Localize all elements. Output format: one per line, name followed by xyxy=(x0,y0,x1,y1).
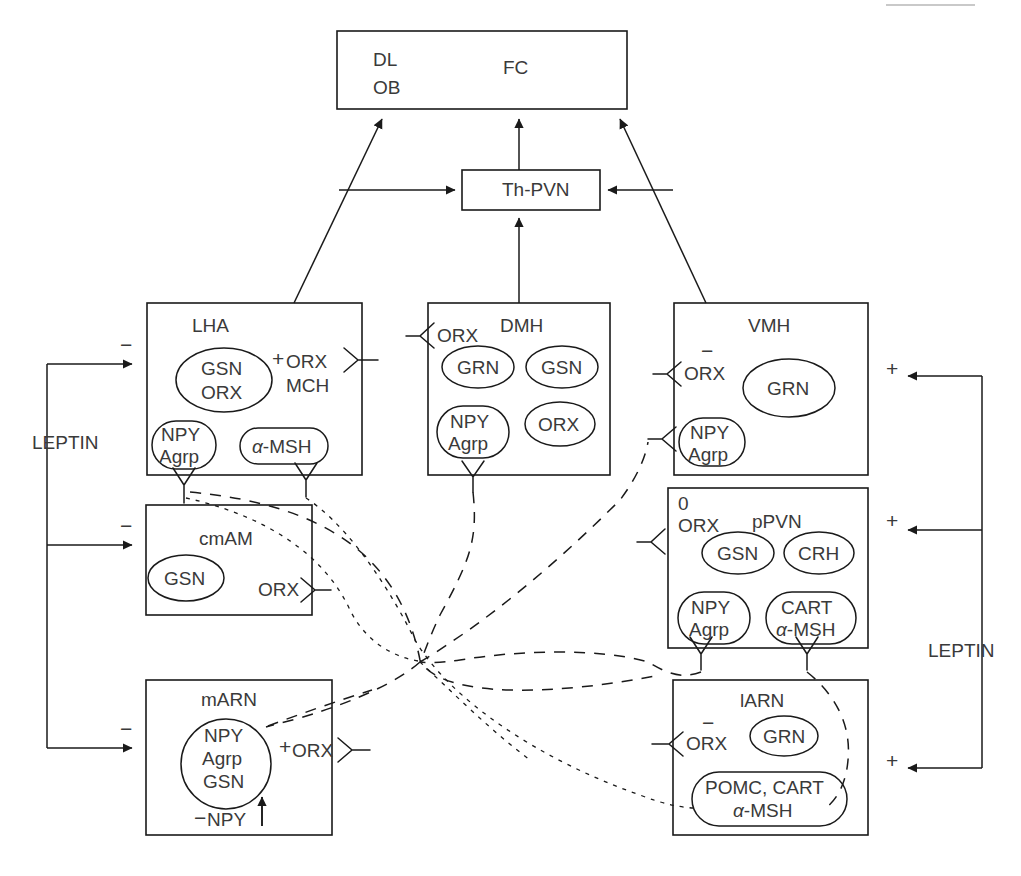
larn-in-orx: ORX xyxy=(686,733,728,754)
lha-out-mch: MCH xyxy=(286,375,329,396)
marn-leptin-sign: − xyxy=(120,717,132,740)
dashed-path-hub-to-marn xyxy=(266,662,420,727)
vmh-agrp-label: Agrp xyxy=(688,444,728,465)
cortex-label-fc: FC xyxy=(503,57,528,78)
vmh-npy-label: NPY xyxy=(690,422,729,443)
dmh-agrp-label: Agrp xyxy=(448,433,488,454)
vmh-label: VMH xyxy=(748,315,790,336)
vmh-input-fork-icon xyxy=(653,362,681,386)
cmam-out-orx: ORX xyxy=(258,579,300,600)
cortex-label-ob: OB xyxy=(373,77,400,98)
dmh-label: DMH xyxy=(500,315,543,336)
ppvn-input-fork-icon xyxy=(637,529,665,554)
lha-output-fork-icon xyxy=(344,348,378,372)
larn-pomc-label: POMC, CART xyxy=(705,777,824,798)
marn-out-sign: + xyxy=(279,735,291,758)
ppvn-gsn-label: GSN xyxy=(717,543,758,564)
marn-label: mARN xyxy=(201,689,257,710)
leptin-right-label: LEPTIN xyxy=(928,640,995,661)
marn-npy-label: NPY xyxy=(204,725,243,746)
leptin-left-label: LEPTIN xyxy=(32,432,99,453)
marn-agrp-label: Agrp xyxy=(202,748,242,769)
ppvn-npy-output-fork-icon xyxy=(690,637,712,670)
cortex-label-dl: DL xyxy=(373,49,397,70)
larn-in-sign: − xyxy=(702,711,714,734)
vmh-in-sign: − xyxy=(701,339,713,362)
ppvn-leptin-sign: + xyxy=(886,509,898,532)
ppvn-crh-label: CRH xyxy=(798,543,839,564)
ppvn-cart-output-fork-icon xyxy=(796,637,818,670)
cmam-leptin-sign: − xyxy=(120,514,132,537)
vmh-npy-fork-icon xyxy=(648,427,676,451)
lha-npy-label: NPY xyxy=(161,424,200,445)
larn-grn-label: GRN xyxy=(763,726,805,747)
dmh-input-fork-icon xyxy=(406,323,434,348)
lha-leptin-sign: − xyxy=(120,333,132,356)
larn-leptin-sign: + xyxy=(886,749,898,772)
lha-label: LHA xyxy=(192,315,229,336)
marn-out-orx: ORX xyxy=(292,740,334,761)
lha-orx-label: ORX xyxy=(201,382,243,403)
larn-amsh-label: α-MSH xyxy=(733,800,792,821)
dotted-path-hub-downright xyxy=(420,662,530,760)
larn-input-fork-icon xyxy=(652,732,683,756)
circuit-diagram-svg: DL OB FC Th-PVN LHA GSN ORX NPY Agrp α-M… xyxy=(0,0,1021,876)
dashed-path-marn-to-hub xyxy=(268,690,372,726)
dmh-in-orx: ORX xyxy=(437,325,479,346)
vmh-leptin-sign: + xyxy=(886,357,898,380)
dmh-gsn-label: GSN xyxy=(541,357,582,378)
ppvn-label: pPVN xyxy=(752,511,802,532)
marn-output-fork-icon xyxy=(338,738,370,762)
cmam-gsn-label: GSN xyxy=(164,568,205,589)
larn-label: lARN xyxy=(740,690,784,711)
ppvn-npy-label: NPY xyxy=(691,597,730,618)
lha-amsh-output-fork-icon xyxy=(295,463,317,497)
lha-npy-output-fork-icon xyxy=(173,468,195,503)
dmh-npy-label: NPY xyxy=(450,411,489,432)
dmh-orx-label: ORX xyxy=(538,414,580,435)
dmh-grn-label: GRN xyxy=(457,357,499,378)
vmh-in-orx: ORX xyxy=(684,363,726,384)
dashed-path-ppvn-npy-to-hub xyxy=(420,652,701,675)
lha-amsh-label: α-MSH xyxy=(252,436,311,457)
ppvn-amsh-label: α-MSH xyxy=(776,619,835,640)
ppvn-cart-label: CART xyxy=(781,597,833,618)
marn-bottom-sign: − xyxy=(194,806,206,829)
dmh-output-fork-icon xyxy=(462,461,484,492)
ppvn-in-orx: ORX xyxy=(678,515,720,536)
cmam-output-fork-icon xyxy=(301,578,331,602)
cmam-label: cmAM xyxy=(199,528,253,549)
dashed-path-dmh-down xyxy=(420,492,474,662)
marn-gsn-label: GSN xyxy=(203,771,244,792)
lha-agrp-label: Agrp xyxy=(159,446,199,467)
arrow-vmh-to-cortex xyxy=(620,119,706,303)
lha-out-orx: ORX xyxy=(286,351,328,372)
ppvn-in-sign: 0 xyxy=(678,493,689,514)
ppvn-agrp-label: Agrp xyxy=(689,619,729,640)
lha-out-sign: + xyxy=(272,347,284,370)
lha-gsn-label: GSN xyxy=(201,358,242,379)
thpvn-label: Th-PVN xyxy=(502,179,570,200)
arrow-lha-to-cortex xyxy=(294,119,382,303)
vmh-grn-label: GRN xyxy=(767,378,809,399)
marn-bottom-npy: NPY xyxy=(207,809,246,830)
diagram-canvas: DL OB FC Th-PVN LHA GSN ORX NPY Agrp α-M… xyxy=(0,0,1021,876)
dotted-path-lha-amsh-to-larn xyxy=(306,498,695,808)
